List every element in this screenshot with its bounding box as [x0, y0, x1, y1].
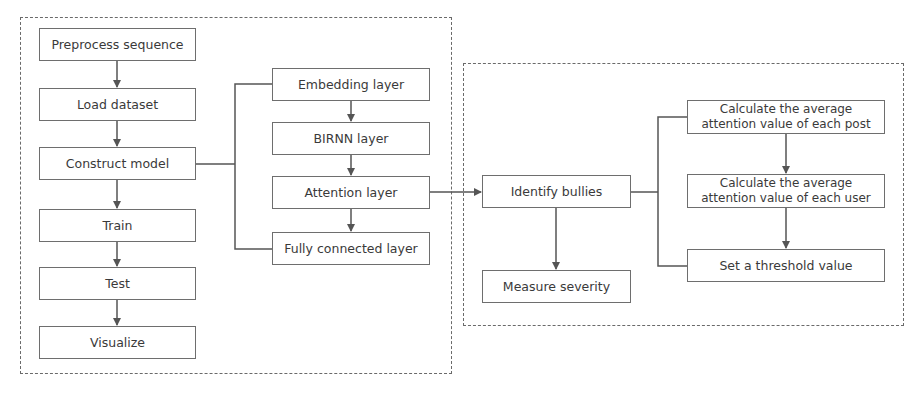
average-attention-per-post-box: Calculate the average attention value of…	[687, 100, 885, 134]
identify-bullies-box: Identify bullies	[482, 175, 631, 208]
set-threshold-box: Set a threshold value	[687, 249, 885, 282]
construct-model-step: Construct model	[39, 147, 196, 180]
load-dataset-step: Load dataset	[39, 88, 196, 121]
preprocess-sequence-step: Preprocess sequence	[39, 28, 196, 61]
embedding-layer-box: Embedding layer	[272, 68, 430, 101]
average-attention-per-user-box: Calculate the average attention value of…	[687, 174, 885, 208]
attention-layer-box: Attention layer	[272, 176, 430, 209]
birnn-layer-box: BIRNN layer	[272, 122, 430, 155]
visualize-step: Visualize	[39, 326, 196, 359]
fully-connected-layer-box: Fully connected layer	[272, 232, 430, 265]
train-step: Train	[39, 209, 196, 242]
measure-severity-box: Measure severity	[482, 270, 631, 303]
test-step: Test	[39, 267, 196, 300]
